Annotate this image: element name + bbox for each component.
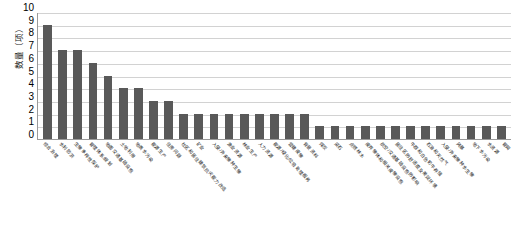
bar[interactable] [346,126,355,139]
bar[interactable] [452,126,461,139]
bar[interactable] [361,126,370,139]
bar[interactable] [421,126,430,139]
bar[interactable] [315,126,324,139]
bar[interactable] [406,126,415,139]
bar-slot [191,13,206,139]
bar-slot [85,13,100,139]
bar-slot [312,13,327,139]
bar[interactable] [391,126,400,139]
bar[interactable] [376,126,385,139]
y-axis-tick-labels: 109876543210 [14,8,34,140]
bar[interactable] [225,114,234,139]
bar[interactable] [179,114,188,139]
bar-slot [464,13,479,139]
bar[interactable] [300,114,309,139]
bar-slot [327,13,342,139]
y-axis-tick: 6 [14,54,34,64]
x-axis-tick: 水资源 [486,141,500,156]
bar[interactable] [285,114,294,139]
bar[interactable] [194,114,203,139]
bar-slot [176,13,191,139]
bar-slot [297,13,312,139]
bar-slot [206,13,221,139]
y-axis-tick: 1 [14,117,34,127]
bar-chart: 数量（项） 109876543210 综合治理水利防洪生物多样性保护管理体系/规… [0,0,514,238]
bar-slot [418,13,433,139]
y-axis-tick: 3 [14,92,34,102]
bar[interactable] [497,126,506,139]
bar[interactable] [164,101,173,139]
bar[interactable] [119,88,128,139]
bar-slot [55,13,70,139]
bar-slot [358,13,373,139]
bar[interactable] [104,76,113,140]
y-axis-tick: 8 [14,28,34,38]
bar-slot [267,13,282,139]
y-axis-tick: 2 [14,105,34,115]
bar-slot [403,13,418,139]
bar-slot [116,13,131,139]
x-axis-tick: 采石 [333,141,344,152]
y-axis-tick: 9 [14,16,34,26]
bar[interactable] [58,50,67,139]
bar-slot [433,13,448,139]
x-axis-tick: 管网 [501,141,512,152]
bar-slot [40,13,55,139]
y-axis-tick: 5 [14,67,34,77]
bar[interactable] [467,126,476,139]
bar[interactable] [43,25,52,139]
plot-area [37,13,511,140]
y-axis-tick: 4 [14,79,34,89]
bar-slot [373,13,388,139]
bar[interactable] [89,63,98,139]
bar-slot [282,13,297,139]
bar-slot [101,13,116,139]
bar-slot [479,13,494,139]
y-axis-tick: 7 [14,41,34,51]
bar-slot [237,13,252,139]
bar-slot [494,13,509,139]
bar[interactable] [270,114,279,139]
bar[interactable] [482,126,491,139]
bar-slot [70,13,85,139]
bar[interactable] [255,114,264,139]
bar[interactable] [210,114,219,139]
bar-slot [222,13,237,139]
bar-slot [252,13,267,139]
bar[interactable] [240,114,249,139]
bar-slot [131,13,146,139]
bar-slot [388,13,403,139]
bar-slot [146,13,161,139]
bar[interactable] [331,126,340,139]
x-axis-tick: 矿业 [195,141,206,152]
bar[interactable] [134,88,143,139]
y-axis-tick: 0 [14,130,34,140]
bar[interactable] [73,50,82,139]
x-axis-tick: 风暴 [455,141,466,152]
bar-series [38,13,511,139]
bar-slot [343,13,358,139]
bar-slot [448,13,463,139]
bar-slot [161,13,176,139]
bar[interactable] [436,126,445,139]
bar[interactable] [149,101,158,139]
x-axis-tick: 煤炭 [318,141,329,152]
y-axis-tick: 10 [14,3,34,13]
x-axis-tick-labels: 综合治理水利防洪生物多样性保护管理体系/规划地面交通基础设施土地利用地表水污染能… [37,141,511,238]
